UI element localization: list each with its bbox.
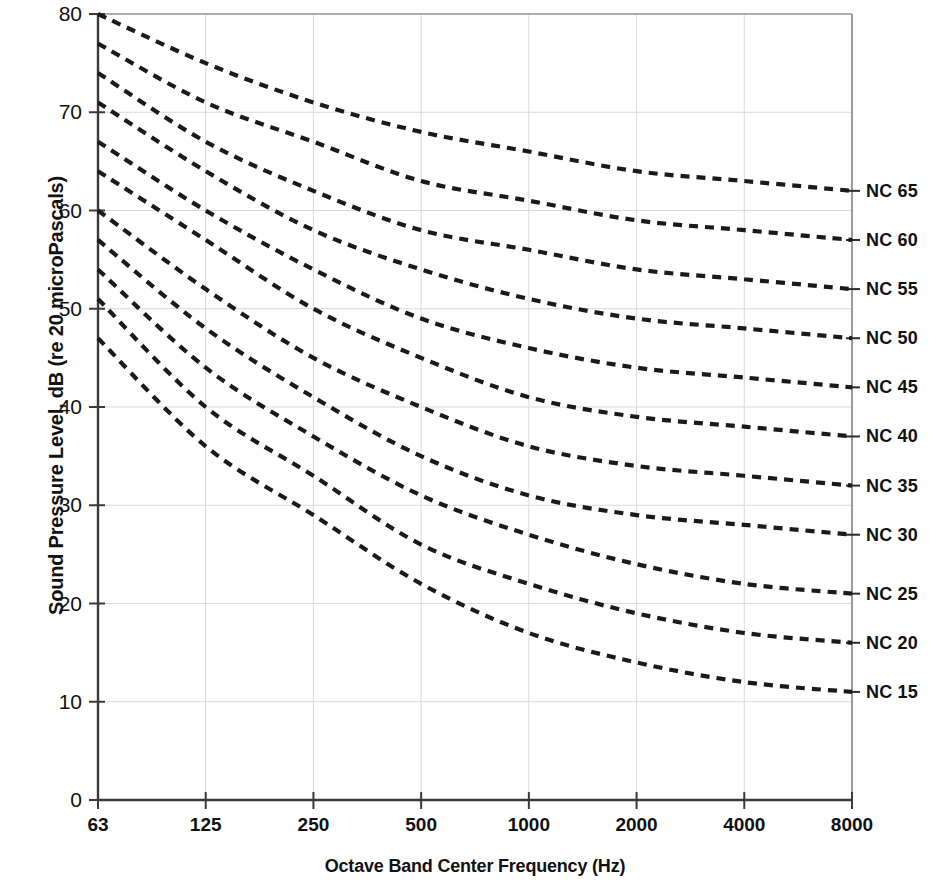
- series-label-nc-45: NC 45: [866, 377, 918, 398]
- series-label-nc-35: NC 35: [866, 475, 918, 496]
- plot-area: [0, 0, 934, 889]
- series-label-nc-20: NC 20: [866, 632, 918, 653]
- series-label-nc-40: NC 40: [866, 426, 918, 447]
- nc-curve-nc-50: [98, 102, 852, 338]
- nc-curves-chart: Sound Pressure Level, dB (re 20 microPas…: [0, 0, 934, 889]
- x-tick-label: 250: [268, 814, 358, 836]
- x-axis-title: Octave Band Center Frequency (Hz): [98, 856, 852, 877]
- nc-curve-lines: [98, 14, 852, 692]
- nc-curve-nc-65: [98, 14, 852, 191]
- series-label-nc-50: NC 50: [866, 328, 918, 349]
- x-tick-label: 63: [53, 814, 143, 836]
- x-tick-label: 4000: [699, 814, 789, 836]
- x-tick-label: 2000: [592, 814, 682, 836]
- nc-curve-nc-25: [98, 269, 852, 593]
- series-label-nc-55: NC 55: [866, 279, 918, 300]
- nc-curve-nc-45: [98, 142, 852, 388]
- nc-curve-nc-20: [98, 299, 852, 643]
- series-label-nc-25: NC 25: [866, 583, 918, 604]
- x-tick-label: 125: [161, 814, 251, 836]
- series-label-nc-65: NC 65: [866, 180, 918, 201]
- nc-curve-nc-35: [98, 211, 852, 486]
- x-tick-label: 1000: [484, 814, 574, 836]
- x-tick-label: 8000: [807, 814, 897, 836]
- series-label-nc-30: NC 30: [866, 524, 918, 545]
- series-label-nc-60: NC 60: [866, 229, 918, 250]
- x-tick-label: 500: [376, 814, 466, 836]
- series-label-nc-15: NC 15: [866, 681, 918, 702]
